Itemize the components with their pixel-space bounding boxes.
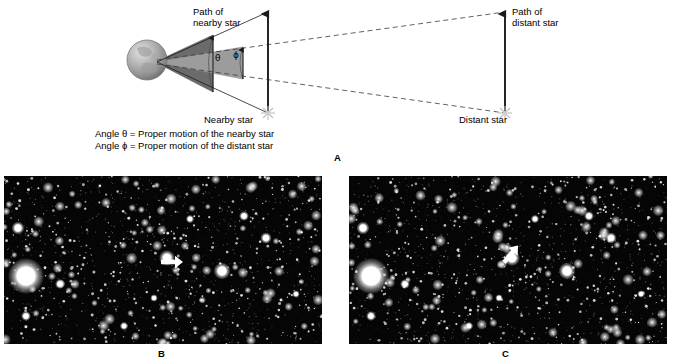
label-path-of-distant-star: Path of distant star bbox=[512, 6, 558, 28]
starfield-canvas-b bbox=[4, 176, 322, 344]
phi-symbol-label: ϕ bbox=[233, 50, 239, 60]
label-path-of-nearby-star: Path of nearby star bbox=[193, 6, 241, 28]
label-nearby-star: Nearby star bbox=[204, 114, 253, 125]
label-distant-star: Distant star bbox=[459, 114, 507, 125]
panel-b-starfield bbox=[4, 176, 322, 344]
panel-label-c: C bbox=[502, 348, 509, 359]
theta-symbol-label: θ bbox=[215, 53, 221, 63]
panel-label-b: B bbox=[158, 348, 165, 359]
panel-c-starfield bbox=[349, 176, 667, 344]
panel-a-caption: Angle θ = Proper motion of the nearby st… bbox=[95, 128, 274, 151]
panel-a-diagram: Path of nearby star Path of distant star… bbox=[0, 0, 673, 165]
proper-motion-figure: Path of nearby star Path of distant star… bbox=[0, 0, 673, 363]
nearby-star-glyph bbox=[261, 106, 275, 120]
panel-label-a: A bbox=[334, 152, 341, 163]
starfield-canvas-c bbox=[349, 176, 667, 344]
